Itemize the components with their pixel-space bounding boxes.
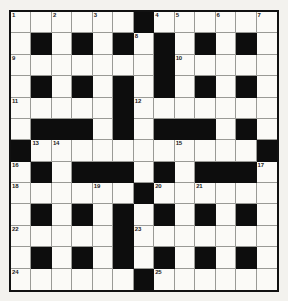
crossword-cell[interactable]: 8 — [134, 33, 154, 54]
crossword-cell[interactable] — [175, 183, 195, 204]
crossword-cell[interactable] — [236, 183, 256, 204]
crossword-cell[interactable] — [93, 140, 113, 161]
crossword-cell[interactable] — [195, 55, 215, 76]
crossword-cell[interactable] — [257, 183, 277, 204]
crossword-cell[interactable] — [175, 226, 195, 247]
crossword-cell[interactable] — [31, 55, 51, 76]
crossword-cell[interactable] — [257, 33, 277, 54]
crossword-cell[interactable] — [154, 140, 174, 161]
crossword-cell[interactable] — [257, 76, 277, 97]
crossword-cell[interactable] — [195, 140, 215, 161]
crossword-cell[interactable]: 18 — [11, 183, 31, 204]
crossword-cell[interactable] — [11, 33, 31, 54]
crossword-cell[interactable] — [52, 33, 72, 54]
crossword-cell[interactable] — [195, 98, 215, 119]
crossword-cell[interactable] — [216, 247, 236, 268]
crossword-cell[interactable]: 2 — [52, 12, 72, 33]
crossword-cell[interactable]: 17 — [257, 162, 277, 183]
crossword-cell[interactable]: 11 — [11, 98, 31, 119]
crossword-cell[interactable]: 15 — [175, 140, 195, 161]
crossword-cell[interactable] — [134, 55, 154, 76]
crossword-cell[interactable]: 5 — [175, 12, 195, 33]
crossword-cell[interactable]: 1 — [11, 12, 31, 33]
crossword-cell[interactable] — [72, 12, 92, 33]
crossword-cell[interactable] — [93, 76, 113, 97]
crossword-cell[interactable] — [52, 55, 72, 76]
crossword-cell[interactable] — [216, 119, 236, 140]
crossword-cell[interactable]: 23 — [134, 226, 154, 247]
crossword-cell[interactable] — [31, 12, 51, 33]
crossword-cell[interactable] — [216, 226, 236, 247]
crossword-cell[interactable] — [154, 226, 174, 247]
crossword-cell[interactable]: 6 — [216, 12, 236, 33]
crossword-cell[interactable] — [236, 269, 256, 290]
crossword-cell[interactable]: 10 — [175, 55, 195, 76]
crossword-cell[interactable]: 3 — [93, 12, 113, 33]
crossword-cell[interactable] — [236, 55, 256, 76]
crossword-cell[interactable]: 16 — [11, 162, 31, 183]
crossword-cell[interactable] — [11, 204, 31, 225]
crossword-cell[interactable] — [113, 12, 133, 33]
crossword-cell[interactable] — [52, 269, 72, 290]
crossword-cell[interactable] — [216, 183, 236, 204]
crossword-cell[interactable] — [216, 269, 236, 290]
crossword-cell[interactable] — [175, 162, 195, 183]
crossword-cell[interactable] — [175, 76, 195, 97]
crossword-cell[interactable] — [93, 119, 113, 140]
crossword-cell[interactable] — [31, 226, 51, 247]
crossword-cell[interactable] — [257, 98, 277, 119]
crossword-cell[interactable]: 9 — [11, 55, 31, 76]
crossword-cell[interactable] — [257, 247, 277, 268]
crossword-cell[interactable] — [216, 140, 236, 161]
crossword-cell[interactable] — [236, 98, 256, 119]
crossword-cell[interactable] — [113, 140, 133, 161]
crossword-cell[interactable]: 12 — [134, 98, 154, 119]
crossword-cell[interactable] — [52, 98, 72, 119]
crossword-cell[interactable] — [134, 204, 154, 225]
crossword-cell[interactable] — [236, 12, 256, 33]
crossword-cell[interactable] — [216, 204, 236, 225]
crossword-cell[interactable] — [175, 204, 195, 225]
crossword-cell[interactable]: 24 — [11, 269, 31, 290]
crossword-cell[interactable] — [134, 162, 154, 183]
crossword-cell[interactable] — [134, 140, 154, 161]
crossword-cell[interactable] — [93, 98, 113, 119]
crossword-cell[interactable]: 13 — [31, 140, 51, 161]
crossword-cell[interactable] — [175, 269, 195, 290]
crossword-cell[interactable] — [72, 98, 92, 119]
crossword-cell[interactable] — [52, 162, 72, 183]
crossword-cell[interactable] — [113, 269, 133, 290]
crossword-cell[interactable]: 14 — [52, 140, 72, 161]
crossword-cell[interactable] — [134, 119, 154, 140]
crossword-cell[interactable]: 19 — [93, 183, 113, 204]
crossword-cell[interactable] — [11, 76, 31, 97]
crossword-cell[interactable] — [134, 76, 154, 97]
crossword-cell[interactable] — [257, 226, 277, 247]
crossword-cell[interactable]: 4 — [154, 12, 174, 33]
crossword-cell[interactable]: 25 — [154, 269, 174, 290]
crossword-cell[interactable] — [93, 55, 113, 76]
crossword-cell[interactable] — [257, 119, 277, 140]
crossword-cell[interactable] — [257, 269, 277, 290]
crossword-cell[interactable] — [52, 204, 72, 225]
crossword-cell[interactable] — [52, 247, 72, 268]
crossword-cell[interactable] — [175, 247, 195, 268]
crossword-cell[interactable] — [195, 269, 215, 290]
crossword-cell[interactable] — [52, 226, 72, 247]
crossword-cell[interactable] — [93, 269, 113, 290]
crossword-cell[interactable] — [195, 226, 215, 247]
crossword-cell[interactable] — [93, 247, 113, 268]
crossword-cell[interactable] — [113, 55, 133, 76]
crossword-cell[interactable]: 20 — [154, 183, 174, 204]
crossword-cell[interactable] — [175, 33, 195, 54]
crossword-cell[interactable] — [195, 12, 215, 33]
crossword-cell[interactable] — [72, 140, 92, 161]
crossword-cell[interactable] — [72, 269, 92, 290]
crossword-cell[interactable] — [72, 183, 92, 204]
crossword-cell[interactable] — [257, 55, 277, 76]
crossword-cell[interactable] — [52, 183, 72, 204]
crossword-cell[interactable] — [154, 98, 174, 119]
crossword-cell[interactable] — [216, 33, 236, 54]
crossword-cell[interactable] — [216, 55, 236, 76]
crossword-cell[interactable]: 22 — [11, 226, 31, 247]
